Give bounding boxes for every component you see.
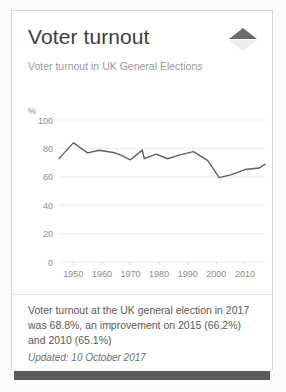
triangle-down-icon[interactable] [229, 40, 257, 51]
y-axis-tick-label: 40 [43, 201, 53, 211]
x-axis-tick-label: 1960 [92, 269, 112, 279]
summary-note: Voter turnout at the UK general election… [28, 303, 260, 348]
chart-container: % 02040608010019501960197019801990200020… [12, 106, 273, 286]
updated-timestamp: Updated: 10 October 2017 [28, 352, 146, 363]
sort-spinner-control[interactable] [226, 28, 260, 54]
turnout-line-chart: 0204060801001950196019701980199020002010 [12, 114, 273, 286]
triangle-up-icon[interactable] [229, 28, 257, 39]
y-axis-tick-label: 80 [43, 144, 53, 154]
page-title: Voter turnout [28, 25, 150, 49]
card-header: Voter turnout [12, 11, 272, 57]
x-axis-tick-label: 1970 [121, 269, 141, 279]
voter-turnout-card: Voter turnout Voter turnout in UK Genera… [11, 10, 273, 372]
footer-divider [12, 294, 272, 295]
x-axis-tick-label: 1950 [63, 269, 83, 279]
y-axis-tick-label: 60 [43, 172, 53, 182]
y-axis-tick-label: 0 [48, 258, 53, 268]
x-axis-tick-label: 1990 [178, 269, 198, 279]
y-axis-tick-label: 20 [43, 229, 53, 239]
y-axis-tick-label: 100 [38, 116, 53, 126]
x-axis-tick-label: 2010 [235, 269, 255, 279]
screenshot-root: Voter turnout Voter turnout in UK Genera… [0, 0, 286, 392]
horizontal-scrollbar-thumb[interactable] [14, 371, 270, 380]
x-axis-tick-label: 1980 [149, 269, 169, 279]
x-axis-tick-label: 2000 [206, 269, 226, 279]
card-subtitle: Voter turnout in UK General Elections [28, 59, 228, 73]
